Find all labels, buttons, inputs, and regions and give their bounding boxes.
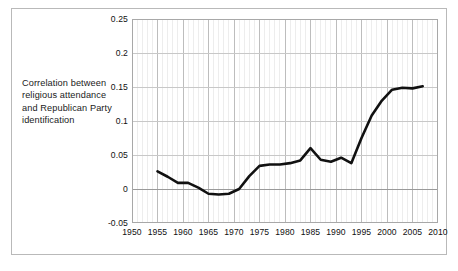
x-tick-label: 1995 bbox=[352, 227, 372, 237]
x-tick-label: 2005 bbox=[403, 227, 423, 237]
x-tick-label: 1990 bbox=[326, 227, 346, 237]
chart-svg bbox=[132, 19, 438, 223]
x-tick-label: 1970 bbox=[224, 227, 244, 237]
y-tick-label: 0.25 bbox=[111, 14, 128, 24]
plot-area: -0.0500.050.10.150.20.251950195519601965… bbox=[132, 19, 438, 223]
x-tick-label: 1955 bbox=[148, 227, 168, 237]
y-tick-label: 0 bbox=[123, 184, 128, 194]
x-tick-label: 1965 bbox=[199, 227, 219, 237]
x-tick-label: 1985 bbox=[301, 227, 321, 237]
y-tick-label: 0.05 bbox=[111, 150, 128, 160]
y-tick-label: 0.15 bbox=[111, 82, 128, 92]
x-tick-label: 2010 bbox=[428, 227, 448, 237]
figure-frame: Correlation between religious attendance… bbox=[11, 8, 447, 255]
chart-area: -0.0500.050.10.150.20.251950195519601965… bbox=[132, 19, 438, 223]
x-tick-label: 1975 bbox=[250, 227, 270, 237]
y-axis-caption: Correlation between religious attendance… bbox=[22, 77, 117, 127]
x-tick-label: 1960 bbox=[173, 227, 193, 237]
y-tick-label: 0.2 bbox=[116, 48, 128, 58]
x-tick-label: 2000 bbox=[377, 227, 397, 237]
y-tick-label: 0.1 bbox=[116, 116, 128, 126]
x-tick-label: 1980 bbox=[275, 227, 295, 237]
x-tick-label: 1950 bbox=[122, 227, 142, 237]
